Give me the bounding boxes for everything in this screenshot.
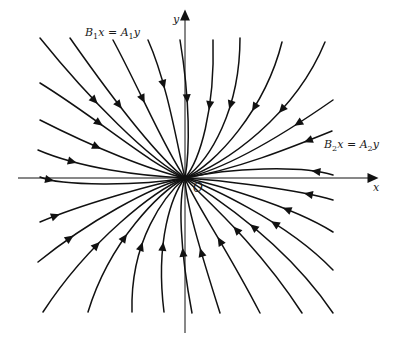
trajectory-top-left: [40, 120, 185, 178]
flow-arrow-icon: [50, 214, 60, 222]
flow-arrow-icon: [119, 234, 127, 244]
eq2-lhs-var: B: [324, 138, 332, 151]
eq2-rhs-var: A: [360, 138, 368, 151]
flow-arrow-icon: [44, 175, 54, 183]
flow-arrow-icon: [294, 118, 304, 126]
flow-arrow-icon: [311, 168, 320, 176]
trajectory-top-right: [185, 169, 333, 178]
trajectory-top-left: [70, 38, 185, 178]
flow-arrow-icon: [64, 236, 74, 244]
flow-arrow-icon: [67, 157, 77, 165]
eigenline-1-label: B1x = A1y: [85, 27, 140, 41]
eigenline-2-label: B2x = A2y: [324, 139, 379, 153]
trajectory-top-right: [185, 42, 282, 178]
flow-arrow-icon: [136, 242, 144, 252]
flow-arrow-icon: [158, 242, 166, 251]
y-axis-arrow-icon: [180, 10, 190, 21]
trajectory-bottom-right: [185, 178, 302, 313]
flow-arrow-icon: [183, 94, 191, 103]
eq1-rhs-y: y: [134, 26, 140, 39]
x-axis-label: x: [373, 182, 379, 193]
y-axis-label: y: [173, 14, 179, 25]
eq2-rhs-y: y: [373, 138, 379, 151]
origin-label: O: [193, 182, 203, 194]
trajectories: [38, 38, 333, 313]
flow-arrow-icon: [93, 117, 103, 126]
phase-portrait: [0, 0, 396, 352]
trajectory-bottom-left: [181, 178, 192, 313]
flow-arrow-icon: [252, 101, 260, 111]
eq2-equals: =: [343, 138, 359, 151]
eq1-rhs-var: A: [121, 26, 129, 39]
flow-arrow-icon: [304, 191, 314, 199]
flow-arrow-icon: [113, 99, 122, 109]
eq1-lhs-var: B: [85, 26, 93, 39]
flow-arrow-icon: [228, 100, 236, 110]
flow-arrow-icon: [271, 221, 281, 229]
trajectory-top-right: [180, 40, 188, 178]
flow-arrow-icon: [206, 101, 214, 110]
eq1-equals: =: [104, 26, 120, 39]
flow-arrow-icon: [199, 248, 207, 258]
trajectory-bottom-right: [185, 178, 260, 313]
